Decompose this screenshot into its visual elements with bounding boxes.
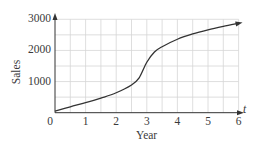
x-tick-label: 0 <box>43 115 57 127</box>
y-axis-label: Sales <box>10 55 22 89</box>
y-tick-label: 3000 <box>11 12 51 24</box>
x-tick-label: 6 <box>232 115 246 127</box>
x-tick-label: 4 <box>170 115 184 127</box>
grid-lines <box>55 19 239 112</box>
x-tick-label: 2 <box>109 115 123 127</box>
x-tick-label: 1 <box>79 115 93 127</box>
y-tick-label: 2000 <box>11 43 51 55</box>
x-tick-label: 5 <box>201 115 215 127</box>
x-tick-label: 3 <box>140 115 154 127</box>
x-axis-variable-label: t <box>243 103 246 115</box>
y-axis-arrow-icon <box>53 13 58 20</box>
x-axis-label: Year <box>136 129 157 141</box>
